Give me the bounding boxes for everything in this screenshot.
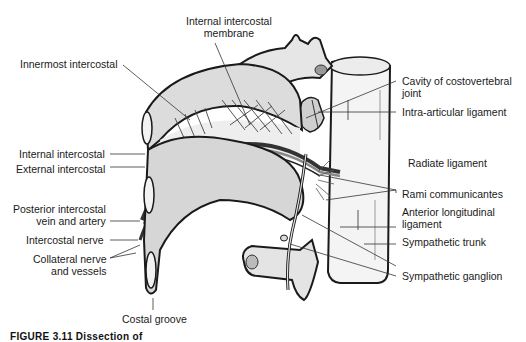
label-intercostal-nerve: Intercostal nerve: [26, 234, 104, 246]
label-intra-articular-ligament: Intra-articular ligament: [402, 106, 506, 118]
label-external-intercostal: External intercostal: [16, 163, 105, 175]
figure-caption: FIGURE 3.11 Dissection of: [10, 331, 143, 342]
label-collateral-nerve-vessels: Collateral nerve and vessels: [33, 253, 107, 277]
label-costal-groove: Costal groove: [122, 313, 187, 325]
label-internal-intercostal-membrane: Internal intercostal membrane: [186, 15, 272, 39]
label-sympathetic-trunk: Sympathetic trunk: [402, 236, 486, 248]
label-sympathetic-ganglion: Sympathetic ganglion: [402, 270, 502, 282]
label-anterior-longitudinal-ligament: Anterior longitudinal ligament: [402, 206, 495, 230]
label-cavity-costovertebral-joint: Cavity of costovertebral joint: [402, 75, 512, 99]
label-rami-communicantes: Rami communicantes: [402, 188, 503, 200]
label-internal-intercostal: Internal intercostal: [19, 148, 105, 160]
label-innermost-intercostal: Innermost intercostal: [20, 58, 117, 70]
label-radiate-ligament: Radiate ligament: [408, 157, 487, 169]
label-posterior-intercostal-vein-artery: Posterior intercostal vein and artery: [13, 203, 106, 227]
